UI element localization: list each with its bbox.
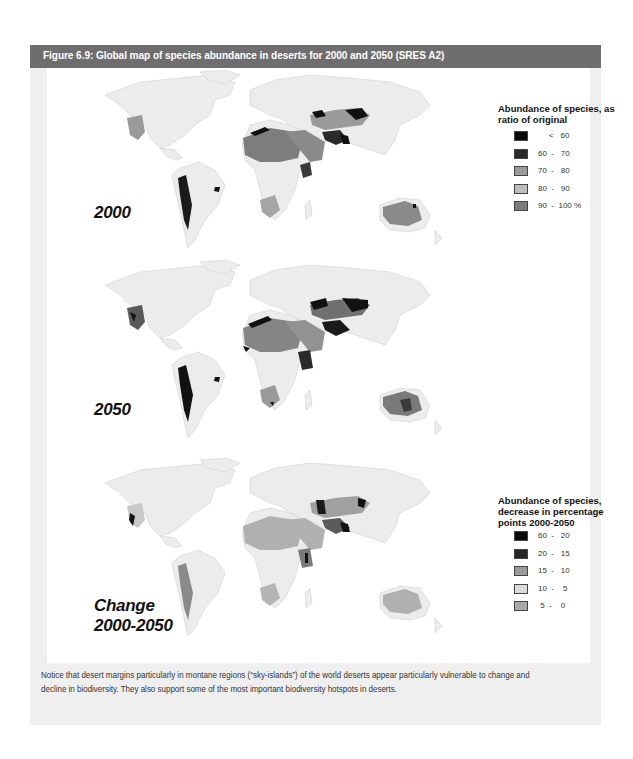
figure-title: Figure 6.9: Global map of species abunda…: [43, 49, 444, 61]
legend-change-item: 20 - 15: [498, 547, 618, 565]
legend-swatch: [514, 601, 528, 611]
legend-ratio-item: 60 - 70: [498, 147, 618, 165]
legend-swatch: [514, 584, 528, 594]
legend-swatch: [514, 149, 528, 159]
legend-ratio-title: Abundance of species, as ratio of origin…: [498, 103, 618, 125]
legend-change-item: 60 - 20: [498, 529, 618, 547]
legend-swatch: [514, 531, 528, 541]
legend-change-item: 10 - 5: [498, 582, 618, 600]
legend-swatch: [514, 131, 528, 141]
legend-change: Abundance of species, decrease in percen…: [498, 495, 618, 617]
legend-change-title: Abundance of species, decrease in percen…: [498, 495, 618, 528]
legend-label: 70 - 80: [538, 166, 570, 175]
legend-swatch: [514, 549, 528, 559]
legend-ratio-item: 90 - 100 %: [498, 199, 618, 217]
world-map-2050: [100, 260, 445, 445]
legend-label: 60 - 20: [538, 531, 570, 540]
map-2050: 2050: [100, 260, 445, 445]
figure-frame: Figure 6.9: Global map of species abunda…: [30, 45, 601, 725]
figure-caption: Notice that desert margins particularly …: [41, 668, 553, 696]
legend-swatch: [514, 566, 528, 576]
legend-change-item: 5 - 0: [498, 599, 618, 617]
legend-label: < 60: [538, 131, 569, 140]
world-map-2000: [100, 70, 445, 255]
legend-label: 60 - 70: [538, 149, 570, 158]
figure-panel: 2000: [47, 68, 590, 663]
map-change: Change 2000-2050: [100, 458, 445, 643]
figure-header: Figure 6.9: Global map of species abunda…: [30, 45, 601, 68]
map-label-2000: 2000: [94, 203, 131, 223]
legend-ratio-item: 80 - 90: [498, 182, 618, 200]
legend-label: 5 - 0: [538, 601, 565, 610]
legend-label: 15 - 10: [538, 566, 570, 575]
map-label-change-line2: 2000-2050: [94, 616, 173, 636]
legend-label: 10 - 5: [538, 584, 567, 593]
map-label-change: Change 2000-2050: [94, 596, 173, 636]
legend-label: 90 - 100 %: [538, 201, 581, 210]
legend-ratio-item: 70 - 80: [498, 164, 618, 182]
map-2000: 2000: [100, 70, 445, 255]
legend-label: 20 - 15: [538, 549, 570, 558]
map-label-change-line1: Change: [94, 596, 173, 616]
legend-swatch: [514, 201, 528, 211]
legend-ratio: Abundance of species, as ratio of origin…: [498, 103, 618, 217]
legend-change-item: 15 - 10: [498, 564, 618, 582]
legend-ratio-item: < 60: [498, 129, 618, 147]
legend-swatch: [514, 166, 528, 176]
legend-label: 80 - 90: [538, 184, 570, 193]
map-label-2050: 2050: [94, 400, 131, 420]
legend-swatch: [514, 184, 528, 194]
